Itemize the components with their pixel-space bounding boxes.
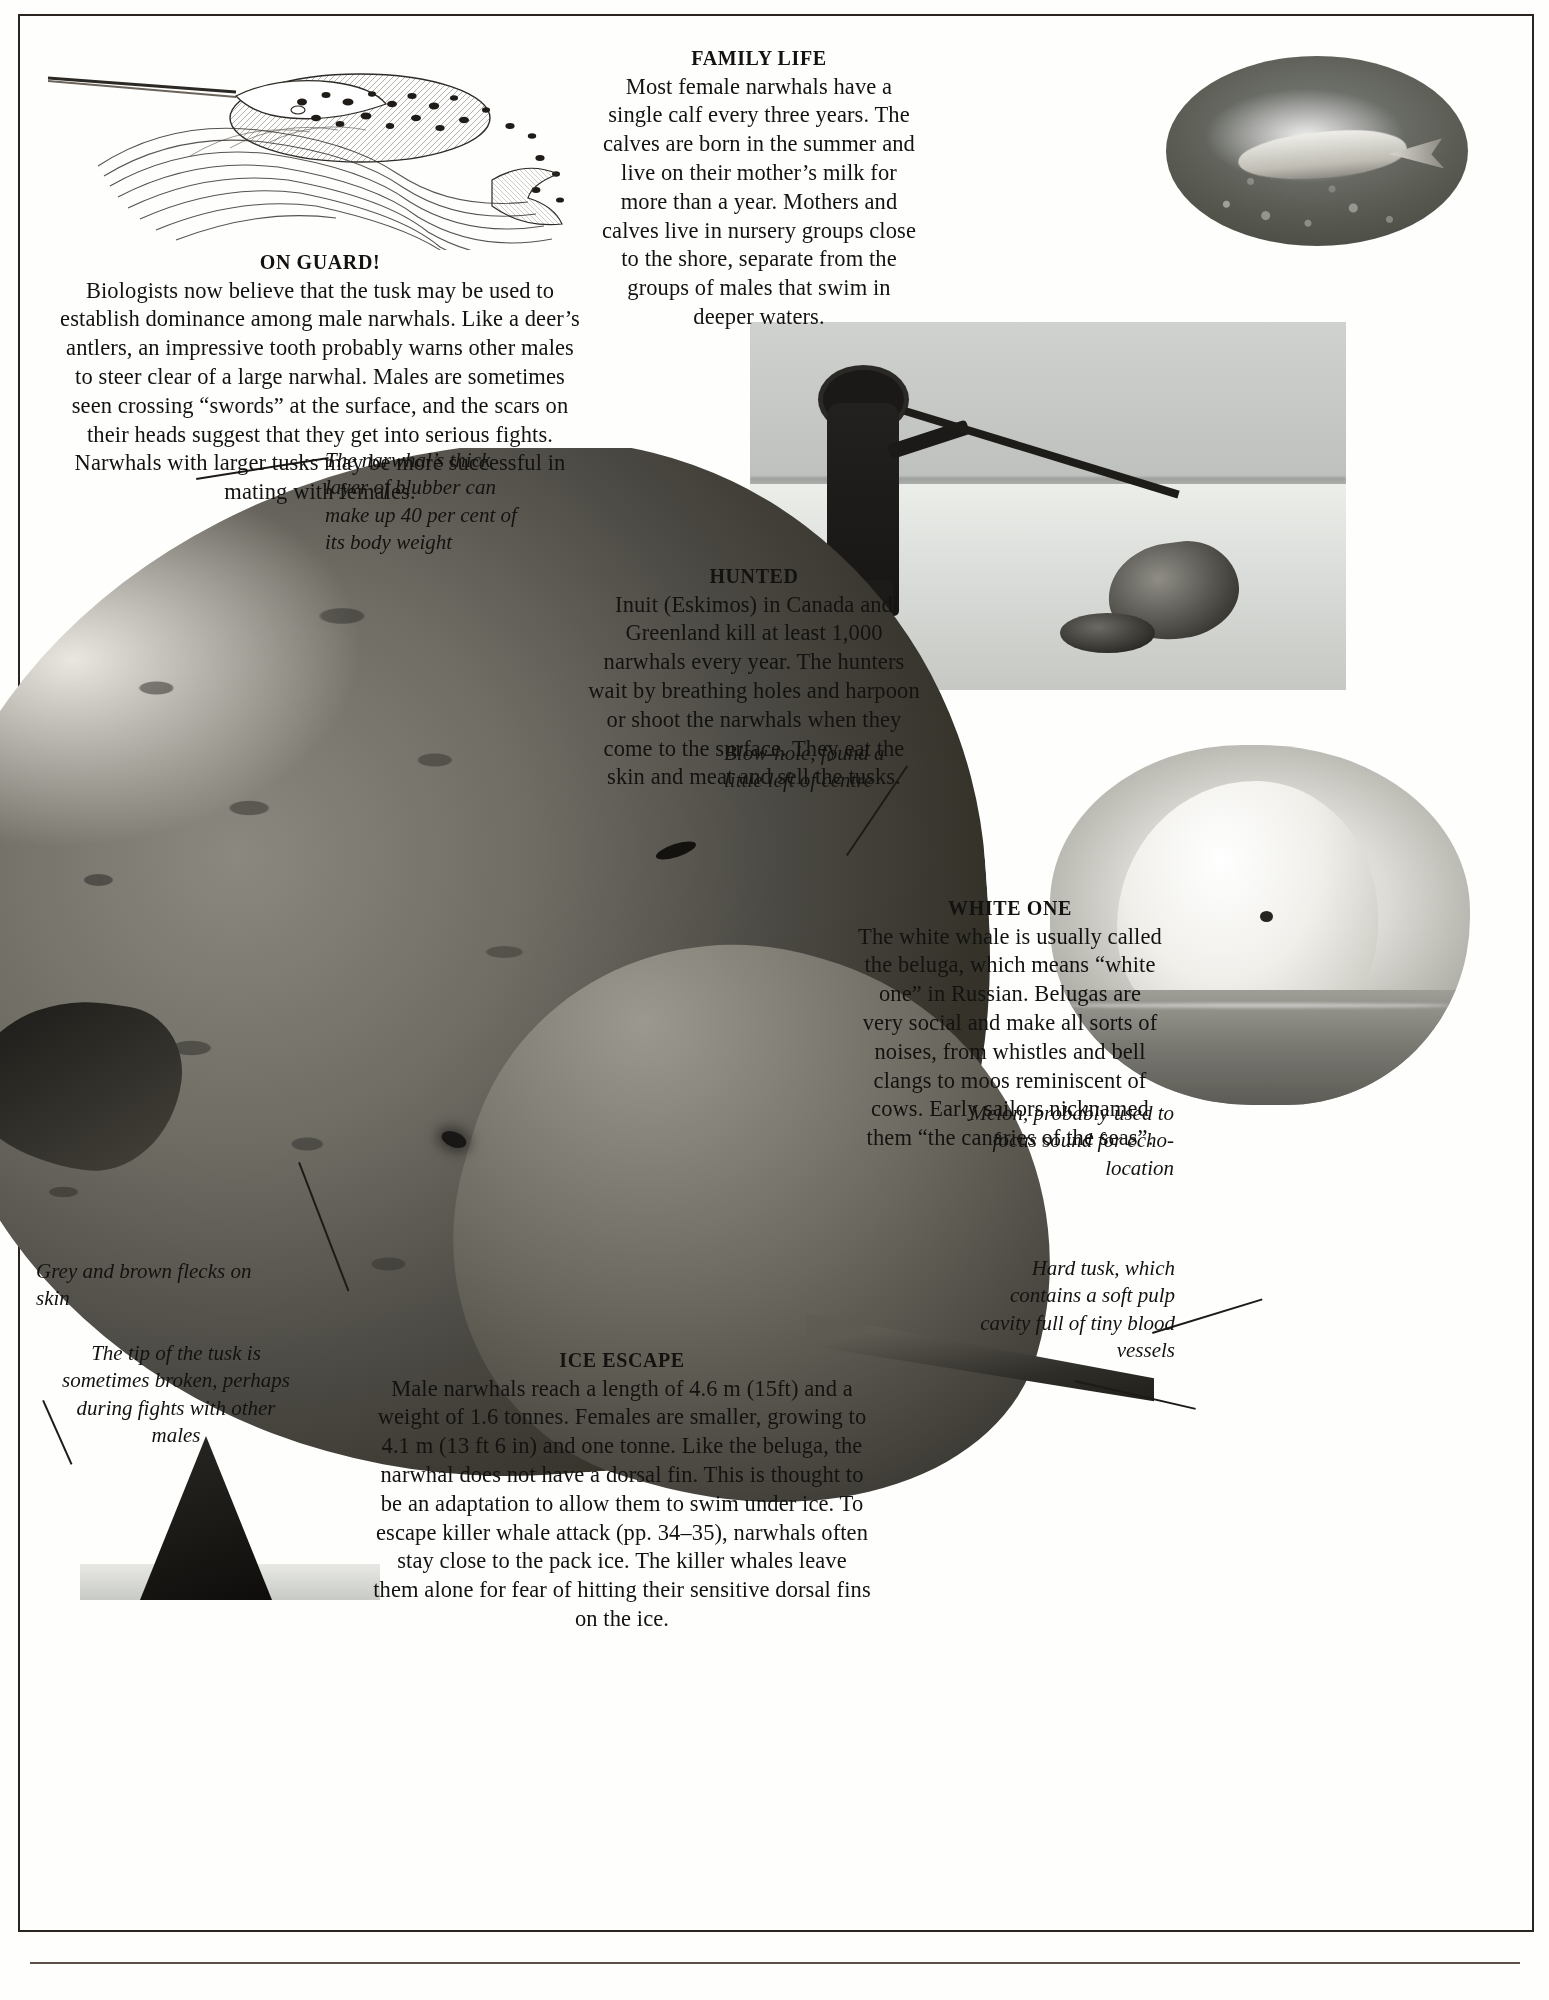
caption-blubber: The narwhal’s thick layer of blubber can… <box>325 447 535 556</box>
figure-narwhal-engraving <box>40 40 600 250</box>
dark-shard <box>140 1436 272 1600</box>
page-border-bottom <box>18 1930 1534 1932</box>
section-heading-on-guard: ON GUARD! <box>58 250 582 276</box>
figure-mother-and-calf <box>1166 56 1468 246</box>
section-heading-hunted: HUNTED <box>588 564 920 590</box>
section-ice-escape: ICE ESCAPE Male narwhals reach a length … <box>372 1348 872 1634</box>
ice-speckle-texture <box>1166 56 1468 246</box>
page-border-right <box>1532 14 1534 1932</box>
section-heading-white-one: WHITE ONE <box>858 896 1162 922</box>
caption-skin-flecks: Grey and brown flecks on skin <box>36 1258 266 1313</box>
caption-blowhole: Blow-hole, found a little left of centre <box>724 740 889 795</box>
section-body-family-life: Most female narwhals have a single calf … <box>602 74 916 329</box>
caption-tusk-tip: The tip of the tusk is sometimes broken,… <box>56 1340 296 1449</box>
caption-tusk: Hard tusk, which contains a soft pulp ca… <box>975 1255 1175 1364</box>
page-footer-rule <box>30 1962 1520 1964</box>
beluga-eye <box>1260 911 1273 922</box>
page-border-top <box>18 14 1534 16</box>
page-canvas: FAMILY LIFE Most female narwhals have a … <box>0 0 1549 2000</box>
section-heading-family-life: FAMILY LIFE <box>596 46 922 72</box>
caption-melon: Melon, probably used to focus sound for … <box>964 1100 1174 1182</box>
section-body-ice-escape: Male narwhals reach a length of 4.6 m (1… <box>373 1376 871 1631</box>
section-family-life: FAMILY LIFE Most female narwhals have a … <box>596 46 922 332</box>
section-heading-ice-escape: ICE ESCAPE <box>372 1348 872 1374</box>
